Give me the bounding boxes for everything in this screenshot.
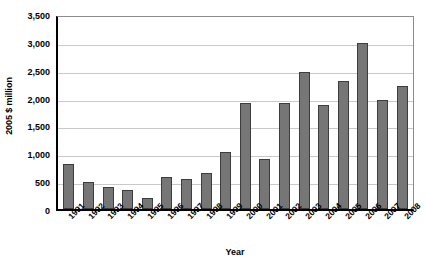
bar-slot bbox=[196, 17, 216, 209]
x-tick-slot: 1997 bbox=[176, 211, 196, 245]
x-tick-slot: 1999 bbox=[215, 211, 235, 245]
bar-slot bbox=[275, 17, 295, 209]
x-tick-slot: 1994 bbox=[116, 211, 136, 245]
bar[interactable] bbox=[338, 81, 349, 209]
y-axis-tick-label: 2,500 bbox=[27, 67, 50, 77]
x-tick-slot: 2003 bbox=[294, 211, 314, 245]
x-tick-slot: 1996 bbox=[156, 211, 176, 245]
bar[interactable] bbox=[397, 86, 408, 209]
y-axis-tick-label: 0 bbox=[45, 206, 50, 216]
x-tick-slot: 1992 bbox=[77, 211, 97, 245]
bar-slot bbox=[314, 17, 334, 209]
y-axis-title-label: 2005 $ million bbox=[4, 77, 14, 135]
x-tick-slot: 2005 bbox=[334, 211, 354, 245]
bar[interactable] bbox=[299, 72, 310, 209]
y-axis-tick-label: 3,000 bbox=[27, 39, 50, 49]
bar-slot bbox=[98, 17, 118, 209]
bar-slot bbox=[235, 17, 255, 209]
bar[interactable] bbox=[357, 43, 368, 209]
bar[interactable] bbox=[240, 103, 251, 209]
bar[interactable] bbox=[377, 100, 388, 209]
x-tick-slot: 1991 bbox=[57, 211, 77, 245]
bar-slot bbox=[118, 17, 138, 209]
bars-layer bbox=[58, 17, 413, 209]
bar-slot bbox=[216, 17, 236, 209]
bar-slot bbox=[177, 17, 197, 209]
bar-slot bbox=[157, 17, 177, 209]
x-tick-slot: 2007 bbox=[374, 211, 394, 245]
y-axis-tick-labels: 05001,0001,5002,0002,5003,0003,500 bbox=[14, 11, 52, 211]
x-tick-slot: 2001 bbox=[255, 211, 275, 245]
x-tick-slot: 2004 bbox=[314, 211, 334, 245]
x-tick-slot: 2000 bbox=[235, 211, 255, 245]
x-tick-slot: 2008 bbox=[393, 211, 413, 245]
x-axis-tick-labels: 1991199219931994199519961997199819992000… bbox=[56, 211, 414, 245]
bar[interactable] bbox=[220, 152, 231, 209]
y-axis-tick-label: 500 bbox=[35, 178, 50, 188]
y-axis-tick-label: 1,000 bbox=[27, 150, 50, 160]
bar[interactable] bbox=[259, 159, 270, 209]
bar-slot bbox=[255, 17, 275, 209]
bar-slot bbox=[59, 17, 79, 209]
bar-slot bbox=[137, 17, 157, 209]
bar-slot bbox=[353, 17, 373, 209]
x-tick-slot: 1993 bbox=[97, 211, 117, 245]
x-tick-slot: 2002 bbox=[275, 211, 295, 245]
x-tick-slot: 2006 bbox=[354, 211, 374, 245]
x-axis-title: Year bbox=[56, 247, 414, 257]
bar-slot bbox=[373, 17, 393, 209]
bar[interactable] bbox=[63, 164, 74, 209]
bar-slot bbox=[294, 17, 314, 209]
y-axis-tick-label: 2,000 bbox=[27, 95, 50, 105]
bar[interactable] bbox=[279, 103, 290, 209]
bar[interactable] bbox=[318, 105, 329, 209]
bar-slot bbox=[79, 17, 99, 209]
y-axis-tick-label: 1,500 bbox=[27, 122, 50, 132]
x-tick-slot: 1998 bbox=[195, 211, 215, 245]
bar-chart-figure: 2005 $ million 05001,0001,5002,0002,5003… bbox=[0, 0, 426, 265]
bar-slot bbox=[392, 17, 412, 209]
plot-area bbox=[56, 16, 414, 211]
bar-slot bbox=[334, 17, 354, 209]
x-tick-slot: 1995 bbox=[136, 211, 156, 245]
y-axis-tick-label: 3,500 bbox=[27, 11, 50, 21]
